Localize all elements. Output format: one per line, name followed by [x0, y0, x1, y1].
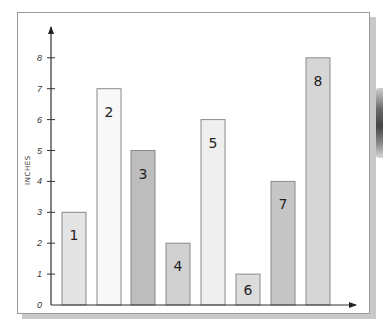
bar-8 [306, 58, 330, 305]
y-tick-label: 1 [37, 269, 42, 279]
y-tick-label: 7 [37, 84, 43, 94]
bar-2 [97, 89, 121, 305]
y-axis-title: INCHES [24, 155, 32, 185]
y-tick-label: 0 [37, 300, 42, 310]
y-tick-label: 5 [37, 146, 43, 156]
bars-group: 12345678 [62, 58, 330, 305]
bar-label: 3 [139, 166, 148, 182]
bar-1 [62, 212, 86, 305]
bar-label: 7 [279, 196, 288, 212]
y-axis-ticks: 012345678 [36, 53, 55, 310]
bar-label: 8 [314, 73, 323, 89]
bar-label: 1 [70, 227, 79, 243]
bar-label: 6 [244, 282, 253, 298]
bar-label: 4 [174, 258, 183, 274]
y-tick-label: 4 [37, 176, 42, 186]
bar-label: 5 [209, 135, 218, 151]
bar-chart: 12345678 012345678 INCHES [0, 0, 383, 333]
y-tick-label: 8 [37, 53, 42, 63]
y-tick-label: 2 [36, 238, 42, 248]
bar-label: 2 [105, 104, 114, 120]
y-tick-label: 6 [37, 115, 42, 125]
y-tick-label: 3 [37, 207, 42, 217]
